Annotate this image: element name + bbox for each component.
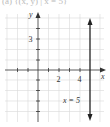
y-axis [36,17,40,122]
line-equation-label: x = 5 [62,96,80,105]
y-axis-label: y [28,10,33,19]
coordinate-graph: y x 2 4 3 x = 5 [0,0,110,127]
y-tick-label-3: 3 [29,35,33,44]
line-up-arrow-icon [88,18,93,25]
grid [5,14,104,122]
line-down-arrow-icon [88,114,93,121]
vertical-line-x5 [88,18,93,121]
x-tick-label-4: 4 [78,75,82,84]
x-tick-label-2: 2 [57,75,61,84]
y-axis-arrow-icon [36,12,41,18]
x-axis [5,68,102,72]
x-axis-label: x [100,72,105,81]
